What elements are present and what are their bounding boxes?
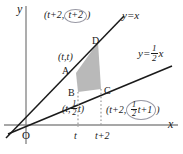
coord-x-component: t+2, — [47, 9, 64, 20]
fraction-denominator: 2 — [71, 108, 77, 117]
coordinate-label-d: (t+2,t+2) — [44, 9, 90, 23]
shaded-parallelogram-region — [76, 42, 101, 92]
fraction-one-half: 12 — [151, 44, 158, 63]
equation-label-y-equals-x: y=x — [122, 10, 139, 21]
fraction-one-half: 12 — [131, 101, 137, 118]
coord-y-expression: t+1 — [138, 104, 153, 115]
coord-x-component: t+2, — [109, 104, 126, 115]
coordinate-label-c: (t+2,12t+1) — [106, 100, 160, 120]
vertex-label-d: D — [92, 36, 99, 46]
fraction-denominator: 2 — [151, 53, 158, 63]
x-tick-label-t: t — [74, 131, 77, 141]
coordinate-label-b: (t,12t) — [62, 100, 84, 117]
coord-close-paren: ) — [156, 104, 159, 115]
vertex-label-a: A — [62, 66, 69, 76]
coord-close-paren: ) — [87, 9, 90, 20]
equation-prefix: y= — [138, 47, 150, 59]
coord-close-paren: ) — [81, 103, 84, 114]
vertex-label-b: B — [68, 88, 75, 98]
coordinate-geometry-figure: y x O t t+2 y=x y=12x A B C D (t+2,t+2) … — [0, 0, 183, 154]
coord-x-component: t, — [65, 103, 70, 114]
equation-label-y-equals-half-x: y=12x — [138, 44, 163, 63]
x-axis-label: x — [168, 118, 173, 130]
vertex-label-c: C — [104, 86, 111, 96]
fraction-denominator: 2 — [131, 109, 137, 118]
highlight-circle-c: 12t+1 — [126, 100, 156, 120]
fraction-numerator: 1 — [151, 44, 158, 53]
highlight-circle-d: t+2 — [64, 9, 87, 23]
fraction-numerator: 1 — [71, 100, 77, 108]
y-axis-label: y — [17, 3, 22, 15]
fraction-numerator: 1 — [131, 101, 137, 109]
x-tick-label-t-plus-2: t+2 — [95, 131, 110, 141]
fraction-one-half: 12 — [71, 100, 77, 117]
origin-label: O — [22, 130, 30, 141]
coordinate-label-a: (t,t) — [58, 52, 73, 62]
equation-variable: x — [158, 47, 163, 59]
